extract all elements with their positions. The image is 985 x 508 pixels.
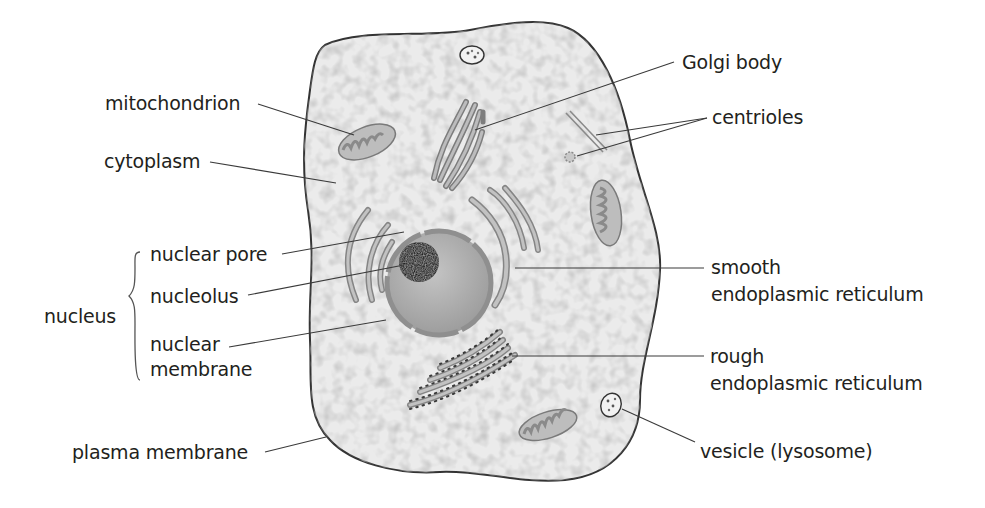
label-nuclear-membrane-line2: membrane: [150, 358, 252, 380]
cell-illustration: [0, 0, 985, 508]
label-golgi-body: Golgi body: [682, 51, 782, 73]
label-smooth-er-line2: endoplasmic reticulum: [711, 283, 924, 305]
label-nuclear-membrane-line1: nuclear: [150, 333, 220, 355]
label-nuclear-pore: nuclear pore: [150, 243, 267, 265]
nucleus: [387, 231, 491, 335]
label-rough-er-line2: endoplasmic reticulum: [710, 372, 923, 394]
label-vesicle-lysosome: vesicle (lysosome): [700, 440, 873, 462]
nucleus-brace: [129, 252, 140, 380]
label-centrioles: centrioles: [712, 106, 803, 128]
animal-cell-diagram: mitochondrion cytoplasm nuclear pore nuc…: [0, 0, 985, 508]
label-plasma-membrane: plasma membrane: [72, 441, 248, 463]
label-smooth-er-line1: smooth: [711, 256, 781, 278]
label-nucleus: nucleus: [44, 305, 116, 327]
label-nucleolus: nucleolus: [150, 285, 239, 307]
vesicle-top: [460, 46, 484, 64]
label-cytoplasm: cytoplasm: [104, 150, 200, 172]
label-mitochondrion: mitochondrion: [105, 92, 240, 114]
label-rough-er-line1: rough: [710, 345, 764, 367]
leader-plasma-membrane: [265, 437, 326, 452]
